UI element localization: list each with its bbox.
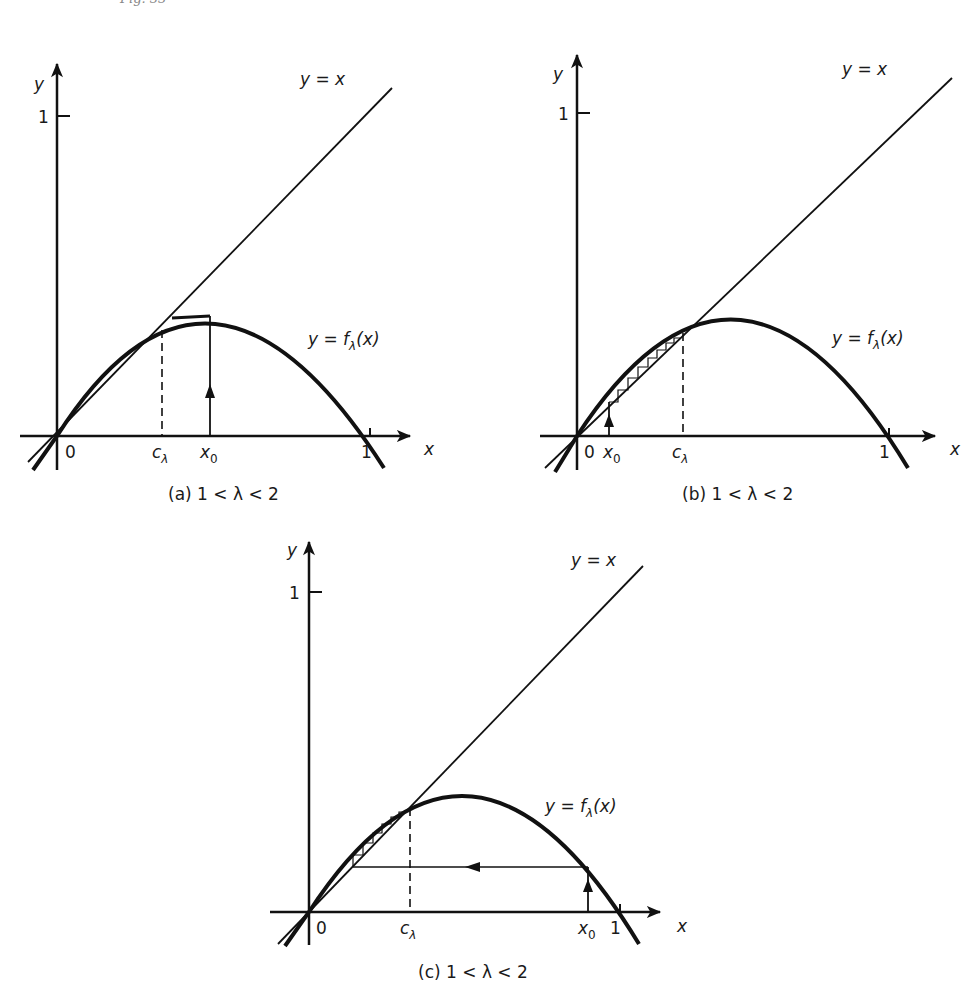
identity-label: y = x — [841, 59, 888, 79]
c-lambda-label: cλ — [672, 442, 688, 466]
y-tick-one-label: 1 — [289, 583, 300, 603]
identity-label: y = x — [299, 69, 346, 89]
y-tick-one-label: 1 — [38, 107, 49, 127]
x0-label: x0 — [577, 918, 596, 942]
arrow-left-icon — [465, 862, 480, 872]
panel-c: y 1 x 0 cλ x0 1 y = x y = fλ(x) (c) 1 < … — [270, 540, 688, 982]
origin-label: 0 — [316, 918, 327, 938]
origin-label: 0 — [65, 442, 76, 462]
identity-line — [545, 78, 952, 468]
c-lambda-label: cλ — [152, 442, 168, 466]
panel-caption: (a) 1 < λ < 2 — [168, 484, 279, 504]
identity-label: y = x — [570, 550, 617, 570]
x0-label: x0 — [199, 442, 218, 466]
curve-label: y = fλ(x) — [307, 329, 380, 353]
y-axis-label: y — [33, 74, 45, 94]
arrow-up-icon — [604, 414, 614, 427]
y-tick-one-label: 1 — [558, 104, 569, 124]
panel-a: y 1 x 0 1 cλ x0 y = x y = fλ(x) (a) 1 < … — [20, 64, 435, 504]
panel-b: y 1 x 0 1 x0 cλ y = x y = fλ(x) (b) 1 < … — [540, 55, 961, 504]
x-tick-one-label: 1 — [610, 918, 621, 938]
x-axis-label: x — [676, 916, 688, 936]
x-axis-label: x — [949, 439, 961, 459]
panel-caption: (b) 1 < λ < 2 — [682, 484, 793, 504]
curve-label: y = fλ(x) — [544, 796, 617, 820]
y-axis-label: y — [286, 540, 298, 560]
curve-label: y = fλ(x) — [831, 328, 904, 352]
orbit-horizontal — [172, 316, 210, 318]
c-lambda-label: cλ — [400, 918, 416, 942]
panel-caption: (c) 1 < λ < 2 — [418, 962, 528, 982]
x-tick-one-label: 1 — [879, 442, 890, 462]
x-axis-label: x — [423, 439, 435, 459]
origin-label: 0 — [584, 442, 595, 462]
arrow-up-icon — [583, 879, 593, 892]
x-tick-one-label: 1 — [361, 442, 372, 462]
x0-label: x0 — [602, 442, 621, 466]
figure-canvas: y 1 x 0 1 cλ x0 y = x y = fλ(x) (a) 1 < … — [0, 0, 976, 1002]
arrow-up-icon — [205, 384, 215, 398]
y-axis-label: y — [552, 64, 564, 84]
